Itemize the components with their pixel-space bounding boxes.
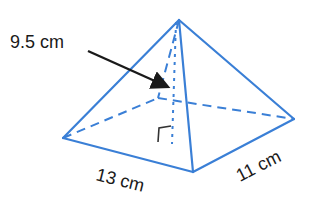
slant-edge-front (179, 20, 193, 172)
base-edge-front-left (63, 138, 193, 172)
pyramid-diagram: 9.5 cm 13 cm 11 cm (0, 0, 325, 215)
height-label: 9.5 cm (10, 32, 64, 52)
right-angle-marker (158, 126, 171, 142)
height-arrow (88, 51, 166, 86)
hidden-edge-left-back (63, 98, 158, 138)
slant-edge-left (63, 20, 179, 138)
base-width-label: 11 cm (233, 146, 285, 185)
base-length-label: 13 cm (94, 164, 146, 195)
